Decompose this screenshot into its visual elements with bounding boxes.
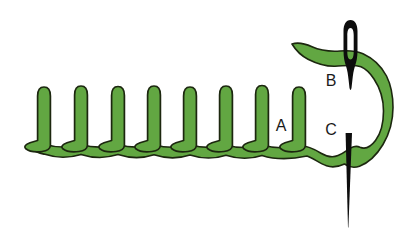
label-point-a: A <box>276 117 287 134</box>
stitch-post <box>135 86 161 152</box>
stitch-post <box>207 86 233 152</box>
stitch-posts <box>25 86 306 152</box>
needle-tip-icon <box>346 133 352 228</box>
blanket-stitch-diagram: A B C <box>0 0 416 236</box>
label-point-c: C <box>325 121 337 138</box>
stitch-post <box>25 87 51 152</box>
stitch-illustration: A B C <box>0 0 416 236</box>
stitch-post <box>243 86 269 152</box>
stitch-post <box>99 87 125 152</box>
stitch-post <box>62 86 88 152</box>
stitch-post <box>171 87 197 152</box>
label-point-b: B <box>326 72 337 89</box>
